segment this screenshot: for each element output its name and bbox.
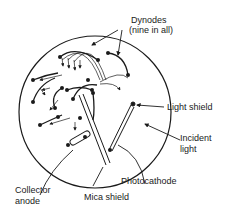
callout-lines [40,30,180,195]
label-incident-light: light [180,144,197,154]
label-dynodes-note: (nine in all) [129,25,173,35]
photocathode [109,102,135,151]
label-light-shield: Light shield [167,102,213,112]
label-anode: anode [15,196,40,206]
photomultiplier-diagram: Dynodes (nine in all) Light shield Incid… [0,0,231,217]
label-collector: Collector [15,185,51,195]
label-mica-shield: Mica shield [84,192,129,202]
collector-anode [69,130,91,146]
label-dynodes: Dynodes [131,15,167,25]
label-incident: Incident [180,133,212,143]
label-photocathode: Photocathode [121,176,177,186]
